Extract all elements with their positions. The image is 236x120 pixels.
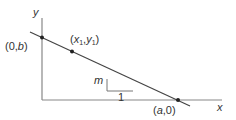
x-axis-label: x: [217, 102, 223, 113]
y-intercept-point: [40, 36, 44, 40]
line-slope-diagram: y x (0,b) (x1,y1) (a,0) m 1: [0, 0, 236, 120]
rise-label: m: [94, 75, 103, 86]
sloped-line: [30, 32, 190, 106]
y-intercept-label: (0,b): [5, 41, 28, 52]
x-intercept-point: [176, 98, 180, 102]
y-axis-label: y: [33, 7, 39, 18]
slope-triangle: [107, 79, 133, 91]
run-label: 1: [118, 92, 124, 103]
point-x1-y1: [70, 50, 74, 54]
x-intercept-label: (a,0): [153, 105, 176, 116]
point-1-label: (x1,y1): [70, 34, 99, 46]
